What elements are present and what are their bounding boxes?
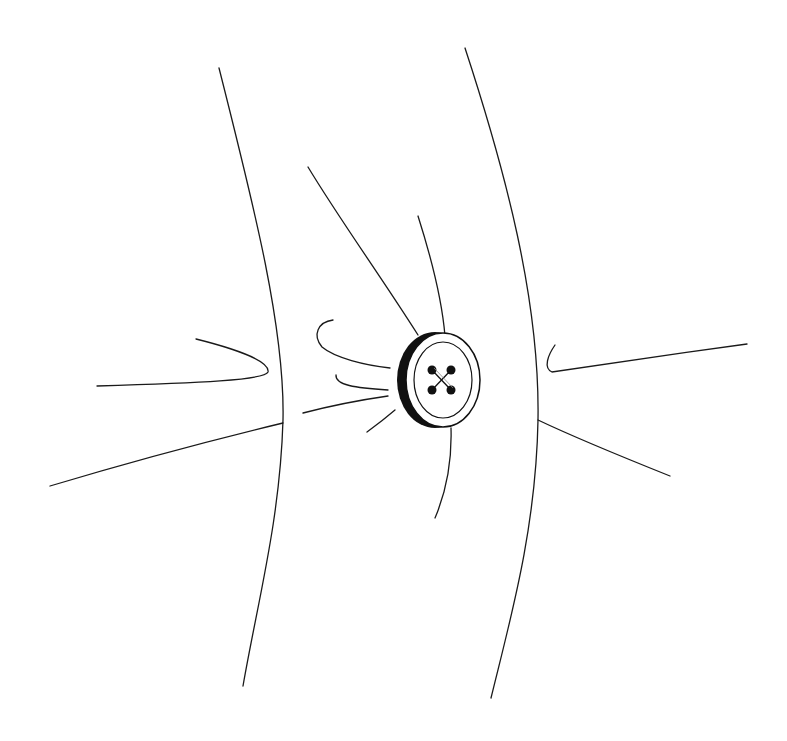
fabric-edge-left bbox=[219, 68, 283, 686]
button-fabric-illustration bbox=[0, 0, 787, 741]
wrinkle-left-to-button bbox=[303, 396, 388, 413]
tension-line-bottom-arc bbox=[435, 428, 451, 518]
thread-loop-top bbox=[317, 320, 390, 368]
wrinkle-left-hook bbox=[97, 339, 268, 386]
tension-line-top-arc bbox=[418, 216, 445, 336]
button-face bbox=[406, 333, 480, 427]
illustration-canvas: sewn button on fabric with tension lines bbox=[0, 0, 787, 741]
thread-loop-low bbox=[367, 410, 395, 432]
button bbox=[397, 332, 480, 428]
tension-line-top-diagonal bbox=[308, 167, 418, 335]
thread-loop-mid bbox=[336, 375, 388, 390]
wrinkle-right-long bbox=[538, 420, 670, 476]
wrinkle-left-long bbox=[50, 423, 283, 486]
wrinkle-right-hook bbox=[547, 344, 747, 372]
